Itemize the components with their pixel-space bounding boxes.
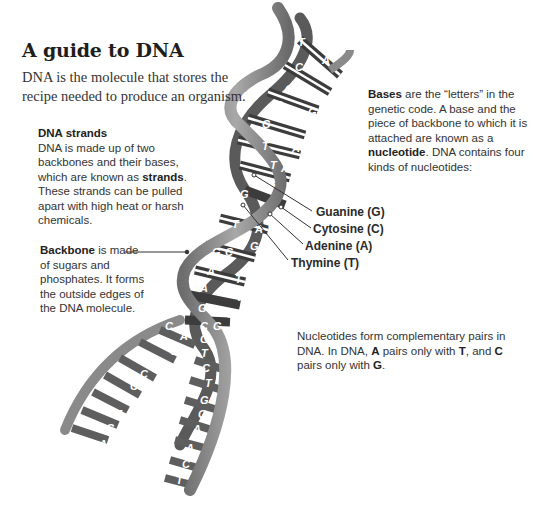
svg-text:C: C [306,127,315,139]
base-t: T [459,345,466,357]
backbone-term: Backbone [40,244,95,256]
base-c: C [495,345,503,357]
svg-text:A: A [254,223,263,235]
label-thymine: Thymine (T) [291,256,359,270]
svg-text:G: G [250,240,259,252]
svg-text:A: A [98,438,107,450]
svg-text:G: G [285,83,294,95]
svg-text:G: G [262,118,271,130]
svg-text:C: C [202,362,211,374]
label-adenine: Adenine (A) [305,239,372,253]
svg-text:C: C [225,246,234,258]
svg-text:C: C [200,320,209,332]
svg-text:C: C [140,368,149,380]
nucleotide-term: nucleotide [368,146,426,158]
svg-text:A: A [206,265,215,277]
backbone-callout: Backbone is made of sugars and phosphate… [40,243,150,316]
svg-text:G: G [213,320,222,332]
svg-text:C: C [296,85,305,97]
svg-text:G: G [200,394,209,406]
strands-term: strands [142,171,184,183]
label-guanine: Guanine (G) [316,205,385,219]
bases-term: Bases [368,88,402,100]
svg-text:A: A [192,423,201,435]
pairs-text: pairs only with [379,345,458,357]
svg-text:G: G [198,302,207,314]
svg-text:G: G [198,408,207,420]
svg-text:G: G [170,345,179,357]
svg-text:A: A [185,442,194,454]
svg-text:C: C [256,176,265,188]
svg-text:G: G [240,188,249,200]
svg-text:T: T [236,291,244,303]
base-g: G [373,359,382,371]
svg-text:A: A [199,282,208,294]
intro-text: DNA is the molecule that stores the reci… [22,68,252,106]
pairs-text: . [382,359,385,371]
pairs-text: , and [466,345,495,357]
svg-text:G: G [308,106,317,118]
svg-text:C: C [165,320,174,332]
svg-text:C: C [295,61,304,73]
pairs-callout: Nucleotides form complementary pairs in … [297,329,507,373]
svg-text:A: A [151,357,160,369]
svg-text:G: G [200,333,209,345]
bases-callout: Bases are the “letters” in the genetic c… [368,87,538,174]
svg-text:C: C [226,308,235,320]
svg-text:C: C [182,458,191,470]
svg-text:G: G [106,422,115,434]
svg-text:A: A [280,162,289,174]
svg-text:A: A [321,54,330,66]
label-cytosine: Cytosine (C) [313,222,384,236]
svg-text:T: T [120,392,128,404]
svg-text:C: C [268,220,277,232]
dna-strands-heading: DNA strands [38,126,188,141]
svg-text:A: A [291,142,300,154]
dna-strands-callout: DNA strands DNA is made up of two backbo… [38,126,188,228]
svg-text:G: G [313,68,322,80]
pairs-text: pairs only with [297,359,373,371]
svg-text:A: A [179,330,188,342]
svg-text:C: C [130,380,139,392]
svg-text:G: G [212,246,221,258]
svg-text:C: C [275,99,284,111]
page-title: A guide to DNA [22,39,184,61]
